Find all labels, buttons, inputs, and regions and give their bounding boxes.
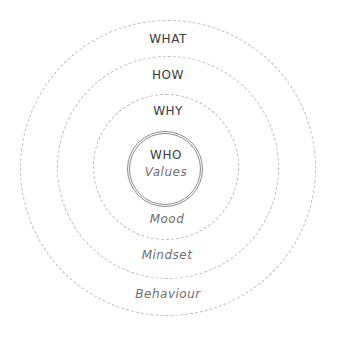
label-behaviour: Behaviour	[135, 287, 200, 301]
label-who: WHO	[150, 148, 182, 162]
label-how: HOW	[152, 68, 184, 82]
label-mood: Mood	[150, 212, 185, 226]
label-what: WHAT	[149, 32, 187, 46]
label-why: WHY	[153, 104, 183, 118]
label-mindset: Mindset	[142, 248, 193, 262]
concentric-circles-diagram: WHAT HOW WHY WHO Values Mood Mindset Beh…	[0, 0, 341, 340]
label-values: Values	[145, 165, 187, 179]
